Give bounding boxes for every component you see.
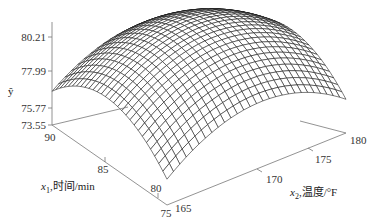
x2-axis-title: x2,温度/°F (289, 185, 337, 201)
back-edge-right (300, 121, 346, 133)
response-surface-chart: 80.21 77.99 75.77 73.55 ŷ 90 85 80 75 x1… (0, 0, 376, 219)
z-tick-label: 80.21 (21, 31, 46, 43)
x2-tick-label: 165 (175, 202, 192, 214)
x2-tick-mark (308, 148, 313, 151)
z-tick-label: 73.55 (21, 119, 46, 131)
z-tick-label: 77.99 (21, 65, 46, 77)
x1-text: ,时间/min (50, 180, 95, 192)
z-axis-title: ŷ (8, 85, 14, 97)
x2-text: ,温度/°F (299, 185, 337, 198)
x1-tick-label: 80 (151, 182, 163, 194)
x1-tick-label: 75 (161, 207, 173, 219)
z-tick-label: 75.77 (21, 102, 46, 114)
x2-tick-label: 180 (350, 134, 367, 146)
x2-tick-label: 170 (266, 173, 283, 185)
z-tick-labels: 80.21 77.99 75.77 73.55 (21, 31, 46, 131)
surface-mesh (52, 9, 346, 180)
x2-tick-labels: 165 170 175 180 (175, 134, 367, 214)
x2-tick-label: 175 (315, 153, 332, 165)
x1-tick-label: 85 (98, 163, 110, 175)
back-edge-left (52, 107, 128, 125)
x1-tick-label: 90 (45, 131, 57, 143)
x2-tick-mark (257, 169, 262, 172)
x1-axis-title: x1,时间/min (40, 180, 95, 195)
